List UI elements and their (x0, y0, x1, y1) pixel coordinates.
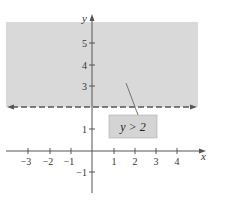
svg-text:1: 1 (82, 124, 87, 135)
x-axis-label: x (200, 150, 206, 162)
x-tick-labels: −3 −2 −1 1 2 3 4 (21, 156, 180, 167)
svg-text:5: 5 (82, 38, 87, 49)
svg-text:2: 2 (133, 156, 138, 167)
shaded-region (6, 22, 198, 107)
svg-text:−1: −1 (64, 156, 75, 167)
inequality-label: y > 2 (119, 120, 145, 134)
svg-text:−2: −2 (43, 156, 54, 167)
svg-text:−3: −3 (21, 156, 32, 167)
svg-text:3: 3 (82, 81, 87, 92)
svg-text:4: 4 (175, 156, 180, 167)
svg-text:3: 3 (154, 156, 159, 167)
inequality-graph: x y −3 −2 −1 1 2 3 4 5 4 3 1 −1 (0, 0, 236, 204)
y-axis-arrow-icon (90, 14, 95, 21)
svg-text:4: 4 (82, 60, 87, 71)
svg-text:1: 1 (112, 156, 117, 167)
svg-text:−1: −1 (76, 167, 87, 178)
y-axis-label: y (81, 12, 87, 24)
